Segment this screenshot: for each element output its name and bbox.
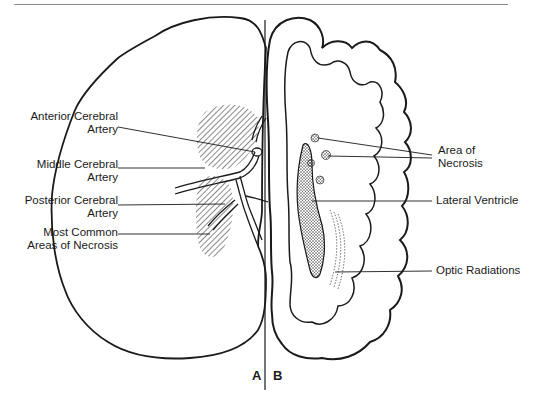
label-text: Artery	[25, 207, 118, 220]
label-text: Artery	[37, 171, 118, 184]
label-text: Posterior Cerebral	[25, 194, 118, 207]
necrosis-hatch-upper	[197, 104, 259, 169]
label-middle-cerebral-artery: Middle Cerebral Artery	[37, 158, 118, 184]
label-text: Areas of Necrosis	[27, 239, 118, 252]
label-optic-radiations: Optic Radiations	[436, 264, 520, 277]
right-hemisphere-outline	[267, 18, 411, 359]
label-area-of-necrosis: Area of Necrosis	[438, 144, 483, 170]
label-text: Lateral Ventricle	[436, 194, 518, 207]
panel-letter-a: A	[252, 368, 261, 383]
leader-lines-right	[312, 138, 432, 272]
necrosis-hatch-lower	[196, 176, 233, 257]
label-text: Middle Cerebral	[37, 158, 118, 171]
label-anterior-cerebral-artery: Anterior Cerebral Artery	[30, 110, 118, 136]
optic-radiations	[330, 210, 345, 289]
label-lateral-ventricle: Lateral Ventricle	[436, 194, 518, 207]
label-text: Most Common	[27, 226, 118, 239]
label-posterior-cerebral-artery: Posterior Cerebral Artery	[25, 194, 118, 220]
panel-letter-b: B	[273, 368, 282, 383]
label-text: Area of	[438, 144, 483, 157]
label-text: Anterior Cerebral	[30, 110, 118, 123]
label-most-common-necrosis: Most Common Areas of Necrosis	[27, 226, 118, 252]
label-text: Necrosis	[438, 157, 483, 170]
label-text: Optic Radiations	[436, 264, 520, 277]
left-hemisphere-outline	[52, 17, 266, 359]
label-text: Artery	[30, 123, 118, 136]
